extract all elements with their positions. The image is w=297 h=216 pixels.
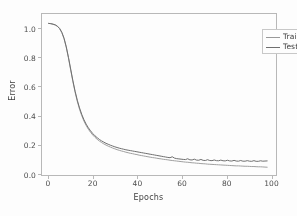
legend-item-test: Test [266, 42, 297, 52]
x-tick-mark [93, 176, 94, 179]
y-tick-label: 1.0 [12, 25, 36, 34]
legend-label-train: Train [283, 32, 297, 42]
x-tick-label: 60 [169, 179, 195, 188]
x-tick-label: 0 [35, 179, 61, 188]
plot-area: Train Test [41, 13, 277, 176]
y-axis-label: Error [8, 66, 17, 116]
x-tick-mark [272, 176, 273, 179]
legend-swatch-train [266, 37, 280, 38]
y-tick-label: 0.2 [12, 141, 36, 150]
legend-swatch-test [266, 47, 280, 48]
x-tick-label: 100 [259, 179, 285, 188]
x-tick-mark [137, 176, 138, 179]
line-series-test [49, 23, 268, 161]
x-axis-label: Epochs [0, 193, 297, 202]
x-tick-label: 80 [214, 179, 240, 188]
line-series-train [49, 23, 268, 167]
figure: 1.0 0.8 0.6 0.4 0.2 0.0 0 20 40 60 80 10… [0, 0, 297, 216]
legend-label-test: Test [283, 42, 297, 52]
x-tick-label: 20 [80, 179, 106, 188]
x-tick-mark [182, 176, 183, 179]
x-tick-mark [48, 176, 49, 179]
x-tick-mark [227, 176, 228, 179]
x-tick-label: 40 [124, 179, 150, 188]
legend-item-train: Train [266, 32, 297, 42]
legend[interactable]: Train Test [262, 29, 297, 54]
series-canvas [42, 14, 276, 175]
y-tick-label: 0.8 [12, 54, 36, 63]
y-tick-label: 0.0 [12, 171, 36, 180]
